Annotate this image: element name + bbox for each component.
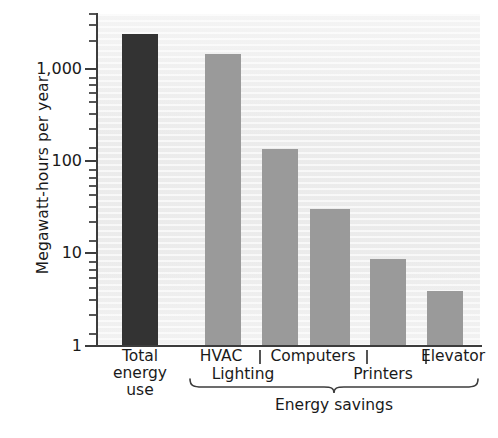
- y-minor-tick: [89, 221, 96, 223]
- y-tick-100: [85, 160, 96, 162]
- y-tick-label-100: 100: [22, 151, 82, 170]
- bar-chart-figure: Megawatt-hours per year: [0, 0, 498, 438]
- bar-printers: [370, 259, 406, 346]
- y-tick-1: [85, 345, 96, 347]
- y-tick-10: [85, 252, 96, 254]
- x-label-hvac: HVAC: [183, 348, 259, 365]
- x-label-computers: Computers: [261, 348, 365, 365]
- y-minor-tick: [89, 261, 96, 263]
- y-minor-tick: [89, 299, 96, 301]
- x-label-total-line3: use: [100, 382, 180, 399]
- y-minor-tick: [89, 333, 96, 335]
- bar-elevator: [427, 291, 463, 346]
- y-minor-tick: [89, 13, 96, 15]
- y-minor-tick: [89, 92, 96, 94]
- y-minor-tick: [89, 128, 96, 130]
- energy-savings-label: Energy savings: [188, 396, 480, 414]
- y-minor-tick: [89, 277, 96, 279]
- y-minor-tick: [89, 314, 96, 316]
- y-minor-tick: [89, 240, 96, 242]
- y-minor-tick: [89, 269, 96, 271]
- y-minor-tick: [89, 77, 96, 79]
- y-minor-tick: [89, 194, 96, 196]
- y-tick-label-1000: 1,000: [22, 59, 82, 78]
- bar-hvac: [205, 54, 241, 346]
- y-minor-tick: [89, 24, 96, 26]
- y-minor-tick: [89, 185, 96, 187]
- y-minor-tick: [89, 206, 96, 208]
- y-minor-tick: [89, 169, 96, 171]
- y-tick-1000: [85, 68, 96, 70]
- y-tick-label-1: 1: [22, 336, 82, 355]
- bar-computers: [310, 209, 350, 346]
- y-minor-tick: [89, 40, 96, 42]
- y-minor-tick: [89, 287, 96, 289]
- y-tick-label-10: 10: [22, 243, 82, 262]
- y-minor-tick: [89, 84, 96, 86]
- x-group-separator: [366, 350, 368, 364]
- y-minor-tick: [89, 147, 96, 149]
- bar-total-energy-use: [122, 34, 158, 346]
- y-minor-tick: [89, 113, 96, 115]
- bar-lighting: [262, 149, 298, 346]
- energy-savings-bracket: [188, 378, 480, 394]
- y-axis-line: [96, 13, 98, 347]
- x-label-elevator: Elevator: [409, 348, 497, 365]
- y-minor-tick: [89, 177, 96, 179]
- plot-area: [97, 14, 480, 346]
- x-label-total-line1: Total: [100, 348, 180, 365]
- x-label-total-energy-use: Total energy use: [100, 348, 180, 399]
- y-minor-tick: [89, 101, 96, 103]
- x-label-total-line2: energy: [100, 365, 180, 382]
